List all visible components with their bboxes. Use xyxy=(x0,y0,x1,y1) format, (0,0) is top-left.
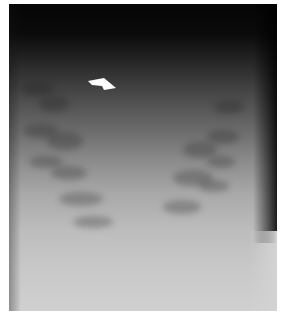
rib-shadow xyxy=(47,132,83,150)
rib-shadow xyxy=(39,96,69,112)
rib-shadow xyxy=(207,156,235,168)
figure-caption xyxy=(8,314,278,325)
figure-left-edge-shading xyxy=(9,4,21,311)
rib-shadow xyxy=(73,216,113,228)
rib-shadow xyxy=(183,142,217,158)
rib-shadow xyxy=(29,156,63,168)
figure-bottom-right-fade xyxy=(249,231,277,311)
radiograph-figure xyxy=(9,4,277,311)
figure-right-edge-shading xyxy=(253,4,277,243)
rib-shadow xyxy=(199,180,229,192)
rib-shadow xyxy=(163,200,201,214)
rib-shadow xyxy=(214,100,244,114)
rib-shadow xyxy=(207,130,239,144)
rib-shadow xyxy=(59,192,103,206)
rib-shadow xyxy=(21,82,53,96)
rib-shadow xyxy=(51,166,87,180)
arrow-annotation-icon xyxy=(88,78,116,92)
